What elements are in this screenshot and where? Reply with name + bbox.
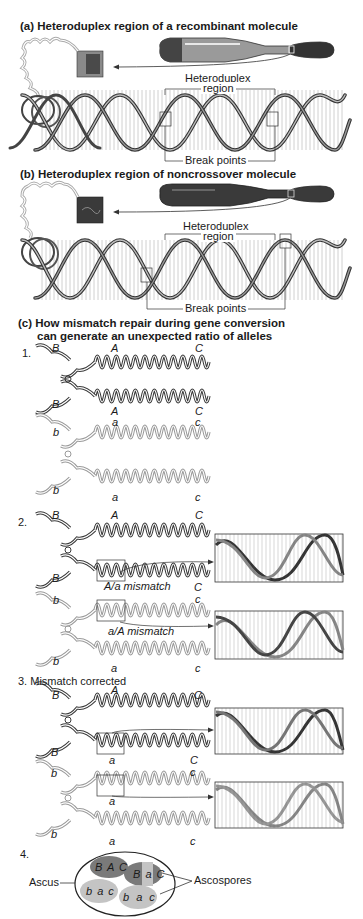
mismatch-text: A/a mismatch: [104, 580, 171, 592]
step4-number: 4.: [20, 848, 29, 860]
region-label-a: region: [201, 82, 236, 94]
panel-c-title-line1: (c) How mismatch repair during gene conv…: [18, 317, 285, 329]
spore-1: B A C: [95, 861, 128, 873]
allele-label: B: [52, 689, 59, 701]
allele-label: a: [109, 754, 115, 766]
allele-label: c: [195, 662, 201, 674]
allele-label: B: [52, 398, 59, 410]
break-points-label-a: Break points: [183, 154, 248, 166]
allele-label: a: [111, 662, 117, 674]
allele-label: a: [112, 416, 118, 428]
panel-b-title: (b) Heteroduplex region of noncrossover …: [20, 168, 296, 180]
allele-label: A: [111, 684, 118, 696]
ascospores-label: Ascospores: [194, 874, 251, 886]
allele-label: C: [190, 754, 198, 766]
panel-b-art: [22, 182, 350, 309]
double-helix-a: [10, 90, 350, 150]
mismatch-label-2: a/A mismatch: [108, 625, 174, 637]
allele-label: A: [111, 509, 118, 521]
region-label-b: region: [201, 230, 236, 242]
diagram-artwork: [0, 0, 363, 919]
step2-number: 2.: [18, 516, 27, 528]
allele-label: b: [53, 655, 59, 667]
allele-label: C: [195, 509, 203, 521]
allele-label: b: [53, 594, 59, 606]
allele-label: C: [194, 581, 202, 593]
allele-label: b: [53, 484, 59, 496]
allele-label: c: [195, 416, 201, 428]
mismatch-text: a/A mismatch: [108, 625, 174, 637]
allele-label: b: [53, 426, 59, 438]
panel-c-title-line2: can generate an unexpected ratio of alle…: [37, 330, 272, 342]
allele-label: a: [109, 835, 115, 847]
allele-label: c: [190, 766, 196, 778]
allele-label: C: [194, 689, 202, 701]
allele-label: b: [51, 767, 57, 779]
allele-label: b: [51, 828, 57, 840]
panel-a-title: (a) Heteroduplex region of a recombinant…: [20, 20, 298, 32]
spore-3: b a c: [86, 885, 115, 897]
break-points-label-b: Break points: [183, 302, 248, 314]
allele-label: B: [52, 342, 59, 354]
allele-label: A: [111, 342, 118, 354]
allele-label: c: [195, 593, 201, 605]
panel-a-art: [10, 38, 350, 161]
allele-label: B: [52, 509, 59, 521]
spore-2: B a C: [133, 868, 166, 880]
chromosome-b-icon: [160, 184, 334, 206]
step3-title: 3. Mismatch corrected: [18, 675, 126, 687]
allele-label: c: [195, 491, 201, 503]
spore-4: b a c: [123, 891, 157, 903]
allele-label: a: [112, 491, 118, 503]
allele-label: c: [190, 835, 196, 847]
chromosome-a-icon: [160, 38, 334, 62]
allele-label: B: [52, 572, 59, 584]
step1-number: 1.: [22, 347, 31, 359]
step2-inset-1: [97, 534, 343, 582]
allele-label: a: [109, 795, 115, 807]
mismatch-label-1: A/a mismatch: [104, 580, 171, 592]
step3-inset-1: [97, 708, 343, 754]
allele-label: B: [51, 746, 58, 758]
double-helix-b: [22, 240, 350, 300]
allele-label: C: [195, 342, 203, 354]
ascus-label: Ascus: [29, 876, 59, 888]
